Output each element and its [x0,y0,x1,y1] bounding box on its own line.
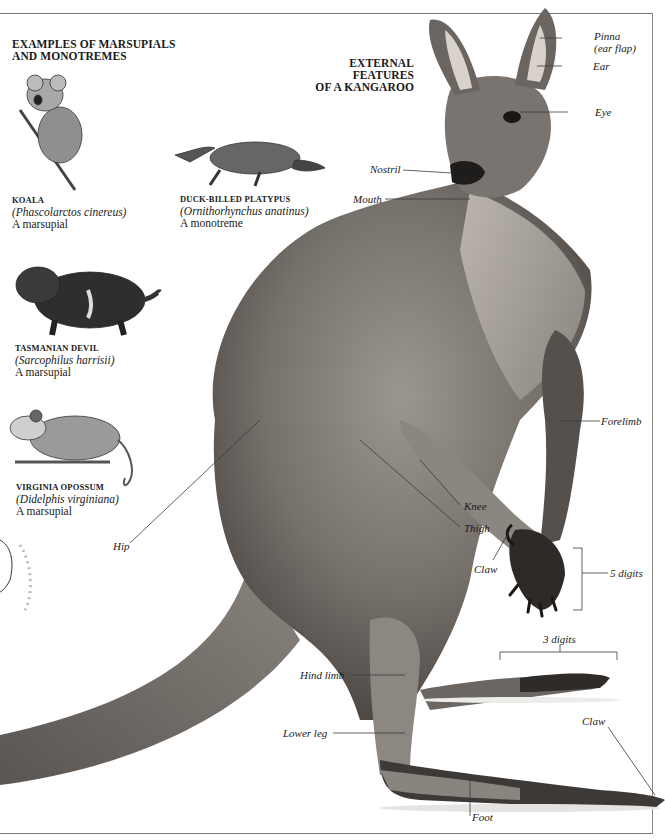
heading-line-2: OF A KANGAROO [292,81,414,93]
label-knee: Knee [464,500,487,512]
label-pinna-line-1: Pinna [594,30,636,42]
label-claw-forelimb: Claw [474,563,497,575]
caption-opossum: VIRGINIA OPOSSUM (Didelphis virginiana) … [16,482,119,517]
label-ear: Ear [593,60,610,72]
common-name: TASMANIAN DEVIL [15,343,115,354]
label-claw-hind: Claw [582,715,605,727]
label-three-digits: 3 digits [543,633,576,645]
common-name: DUCK-BILLED PLATYPUS [180,194,309,205]
label-pinna-line-2: (ear flap) [594,42,636,54]
label-forelimb: Forelimb [601,415,642,427]
caption-platypus: DUCK-BILLED PLATYPUS (Ornithorhynchus an… [180,194,309,229]
opossum-illustration [10,410,132,485]
koala-illustration [20,75,82,190]
label-eye: Eye [595,106,611,118]
heading-line-1: EXTERNAL FEATURES [292,57,414,81]
heading-line-1: EXAMPLES OF MARSUPIALS [12,38,175,50]
section-heading-examples: EXAMPLES OF MARSUPIALS AND MONOTREMES [12,38,175,62]
label-five-digits: 5 digits [610,567,643,579]
label-hind-limb: Hind limb [300,669,344,681]
scientific-name: (Sarcophilus harrisii) [15,354,115,366]
animal-type: A marsupial [16,505,119,517]
label-thigh: Thigh [464,522,490,534]
label-foot: Foot [472,811,493,823]
animal-type: A monotreme [180,217,309,229]
label-nostril: Nostril [370,163,401,175]
label-hip: Hip [113,540,130,552]
scientific-name: (Didelphis virginiana) [16,493,119,505]
animal-type: A marsupial [12,218,126,230]
animal-type: A marsupial [15,366,115,378]
label-pinna: Pinna (ear flap) [594,30,636,54]
scientific-name: (Phascolarctos cinereus) [12,206,126,218]
label-lower-leg: Lower leg [283,727,327,739]
tasmanian-devil-illustration [16,267,160,335]
kangaroo-photo [0,0,665,840]
caption-koala: KOALA (Phascolarctos cinereus) A marsupi… [12,195,126,230]
common-name: KOALA [12,195,126,206]
caption-tasmanian-devil: TASMANIAN DEVIL (Sarcophilus harrisii) A… [15,343,115,378]
scientific-name: (Ornithorhynchus anatinus) [180,205,309,217]
section-heading-kangaroo: EXTERNAL FEATURES OF A KANGAROO [292,57,414,93]
partial-illustration-left [0,540,30,610]
platypus-illustration [175,142,325,186]
heading-line-2: AND MONOTREMES [12,50,175,62]
label-mouth: Mouth [353,193,382,205]
common-name: VIRGINIA OPOSSUM [16,482,119,493]
